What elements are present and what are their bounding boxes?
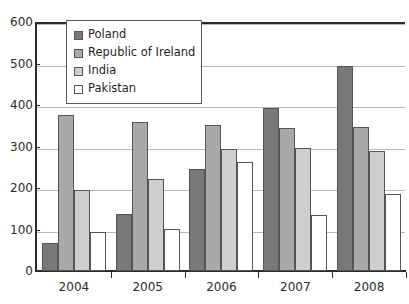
bar-pakistan-2004[interactable] xyxy=(90,232,106,271)
bar-ireland-2007[interactable] xyxy=(279,128,295,271)
x-tick-label-2008: 2008 xyxy=(339,281,399,293)
legend-swatch-icon xyxy=(74,67,83,76)
y-tick-mark xyxy=(35,188,40,189)
bar-poland-2007[interactable] xyxy=(263,108,279,271)
x-tick-label-2006: 2006 xyxy=(192,281,252,293)
y-tick-label: 200 xyxy=(2,182,33,194)
bar-ireland-2005[interactable] xyxy=(132,122,148,271)
x-tick-mark xyxy=(185,272,186,278)
bar-pakistan-2007[interactable] xyxy=(311,215,327,271)
y-tick-mark xyxy=(35,105,40,106)
y-tick-label: 600 xyxy=(2,16,33,28)
y-tick-label: 400 xyxy=(2,99,33,111)
bar-india-2005[interactable] xyxy=(148,179,164,271)
bar-group xyxy=(258,22,332,271)
y-tick-mark xyxy=(35,230,40,231)
legend-label: Republic of Ireland xyxy=(88,47,195,59)
bar-india-2008[interactable] xyxy=(369,151,385,271)
x-tick-label-2004: 2004 xyxy=(44,281,104,293)
bar-ireland-2004[interactable] xyxy=(58,115,74,271)
chart-legend: PolandRepublic of IrelandIndiaPakistan xyxy=(66,20,202,104)
legend-swatch-icon xyxy=(74,31,83,40)
x-tick-label-2007: 2007 xyxy=(265,281,325,293)
legend-item[interactable]: Poland xyxy=(74,26,195,44)
x-tick-mark xyxy=(406,272,407,278)
bar-poland-2008[interactable] xyxy=(337,66,353,271)
bar-pakistan-2008[interactable] xyxy=(385,194,401,271)
legend-item[interactable]: India xyxy=(74,62,195,80)
bar-poland-2006[interactable] xyxy=(189,169,205,271)
bar-pakistan-2005[interactable] xyxy=(164,229,180,271)
legend-swatch-icon xyxy=(74,85,83,94)
legend-swatch-icon xyxy=(74,49,83,58)
legend-item[interactable]: Republic of Ireland xyxy=(74,44,195,62)
bar-group xyxy=(332,22,406,271)
y-tick-mark xyxy=(35,64,40,65)
y-tick-mark xyxy=(35,147,40,148)
y-tick-label: 500 xyxy=(2,58,33,70)
legend-label: India xyxy=(88,65,116,77)
y-tick-mark xyxy=(35,271,40,272)
x-tick-mark xyxy=(111,272,112,278)
bar-pakistan-2006[interactable] xyxy=(237,162,253,271)
x-tick-mark xyxy=(332,272,333,278)
grouped-bar-chart: 0100200300400500600 PolandRepublic of Ir… xyxy=(0,0,409,304)
y-tick-label: 0 xyxy=(2,265,33,277)
bar-poland-2005[interactable] xyxy=(116,214,132,271)
x-tick-label-2005: 2005 xyxy=(118,281,178,293)
legend-label: Poland xyxy=(88,29,126,41)
bar-ireland-2006[interactable] xyxy=(205,125,221,271)
x-tick-mark xyxy=(258,272,259,278)
bar-india-2004[interactable] xyxy=(74,190,90,271)
y-tick-label: 100 xyxy=(2,224,33,236)
bar-ireland-2008[interactable] xyxy=(353,127,369,271)
y-axis: 0100200300400500600 xyxy=(0,0,33,304)
bar-india-2007[interactable] xyxy=(295,148,311,271)
y-tick-mark xyxy=(35,22,40,23)
bar-india-2006[interactable] xyxy=(221,149,237,271)
legend-label: Pakistan xyxy=(88,83,136,95)
bar-poland-2004[interactable] xyxy=(42,243,58,271)
legend-item[interactable]: Pakistan xyxy=(74,80,195,98)
y-tick-label: 300 xyxy=(2,141,33,153)
